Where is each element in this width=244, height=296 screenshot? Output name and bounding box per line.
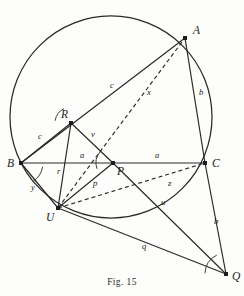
segment-label-r-ru: r [57,166,61,176]
segment-U-P [58,163,113,208]
segment-label-b-cq: b [214,216,219,226]
segment-B-U [21,163,58,208]
vertex-dot-q [224,272,228,276]
segment-label-u-pq: u [161,197,165,207]
segment-A-C [185,38,205,163]
segment-label-z-uc: z [167,178,172,188]
segment-label-x-ua: x [146,87,151,97]
vertex-dot-u [56,206,60,210]
segment-U-A-dashed [58,38,185,208]
angle-arc-at-Q [205,255,217,273]
segment-label-a-bp: a [80,150,84,160]
segment-label-c-br: c [38,131,42,141]
vertex-dot-r [69,121,73,125]
angle-arc-at-P [96,152,100,169]
segment-label-b-ac: b [199,87,204,97]
geometry-diagram: ABCPRUQ cxbcvaarpzyubq [0,0,244,296]
segment-B-A [21,38,185,163]
dashed-segments-group [58,38,205,208]
figure-caption: Fig. 15 [0,277,244,287]
segment-U-C-dashed [58,163,205,208]
vertex-dot-a [183,36,187,40]
segment-label-y-bu: y [30,182,35,192]
vertex-label-c: C [212,157,220,169]
segment-label-q-uq: q [142,241,147,251]
vertex-label-b: B [7,157,14,169]
figure-container: ABCPRUQ cxbcvaarpzyubq Fig. 15 [0,0,244,296]
vertex-label-r: R [60,108,68,120]
vertex-dots-group [19,36,228,276]
circumcircle-group [10,16,212,218]
segment-label-c-ba: c [110,80,114,90]
circumcircle [10,16,212,218]
vertex-dot-c [203,161,207,165]
segment-label-v-rp: v [91,129,95,139]
vertex-dot-b [19,161,23,165]
segment-label-a-pc: a [155,150,159,160]
vertex-label-a: A [192,24,201,36]
segment-labels-group: cxbcvaarpzyubq [30,80,219,251]
vertex-dot-p [111,161,115,165]
vertex-label-u: U [46,211,55,223]
vertex-label-p: P [116,165,124,177]
segment-B-R [21,123,71,163]
solid-segments-group [21,38,226,274]
segment-label-p-up: p [92,178,98,188]
